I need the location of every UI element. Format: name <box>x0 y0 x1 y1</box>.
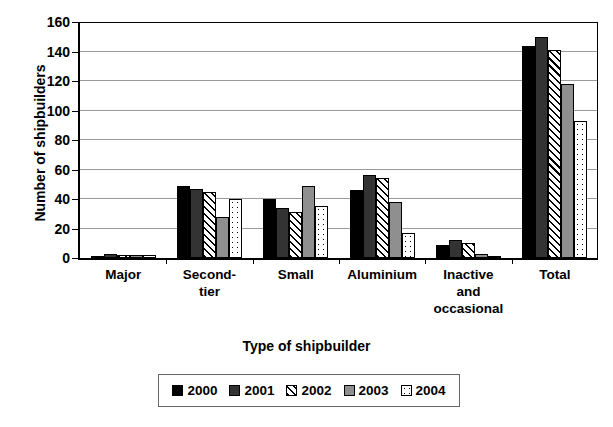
bar <box>522 46 535 258</box>
bar <box>315 206 328 258</box>
legend-item[interactable]: 2000 <box>172 384 217 397</box>
y-axis-tick-label: 80 <box>30 135 70 145</box>
legend-label: 2001 <box>244 384 274 397</box>
bar-group <box>166 22 252 258</box>
bar-group <box>512 22 598 258</box>
bar <box>350 190 363 258</box>
legend-label: 2003 <box>359 384 389 397</box>
legend-swatch-icon <box>344 385 355 396</box>
bar <box>488 256 501 258</box>
x-axis-tick-label: Small <box>253 266 339 283</box>
legend-label: 2000 <box>187 384 217 397</box>
x-axis-title: Type of shipbuilder <box>0 338 613 354</box>
x-axis-tick-label-line: Aluminium <box>339 266 425 283</box>
legend-swatch-icon <box>229 385 240 396</box>
y-axis-tick-label: 100 <box>30 106 70 116</box>
bar <box>389 202 402 258</box>
x-axis-tick-labels: MajorSecond-tierSmallAluminiumInactivean… <box>80 266 598 328</box>
x-axis-tick-label: Inactiveandoccasional <box>425 266 511 317</box>
x-axis-tick-mark <box>166 258 167 264</box>
legend: 20002001200220032004 <box>158 374 460 407</box>
bar <box>177 186 190 258</box>
x-axis-tick-label-line: Major <box>80 266 166 283</box>
x-axis-tick-label: Total <box>512 266 598 283</box>
x-axis-tick-label-line: occasional <box>425 300 511 317</box>
bar <box>91 256 104 258</box>
bar <box>475 254 488 258</box>
legend-label: 2002 <box>301 384 331 397</box>
x-axis-tick-mark <box>425 258 426 264</box>
x-axis-tick-label-line: Inactive <box>425 266 511 283</box>
legend-item[interactable]: 2003 <box>344 384 389 397</box>
bar <box>548 50 561 258</box>
bar <box>574 121 587 258</box>
bar <box>449 240 462 258</box>
bar <box>190 189 203 258</box>
y-axis-tick-label: 120 <box>30 76 70 86</box>
x-axis-tick-label: Aluminium <box>339 266 425 283</box>
bar <box>561 84 574 258</box>
bar-group <box>425 22 511 258</box>
bar <box>229 199 242 258</box>
bar <box>216 217 229 258</box>
legend-swatch-icon <box>172 385 183 396</box>
x-axis-tick-label: Second-tier <box>166 266 252 300</box>
bar <box>104 254 117 258</box>
bar-chart: Number of shipbuilders 16014012010080604… <box>0 0 613 427</box>
y-axis-tick-label: 60 <box>30 165 70 175</box>
legend-swatch-icon <box>401 385 412 396</box>
bar-group <box>339 22 425 258</box>
y-axis-tick-label: 20 <box>30 224 70 234</box>
x-axis-tick-label-line: Total <box>512 266 598 283</box>
bar-group <box>253 22 339 258</box>
bar <box>130 255 143 258</box>
bar-groups <box>80 22 598 258</box>
bar <box>263 199 276 258</box>
x-axis-tick-label: Major <box>80 266 166 283</box>
bar <box>363 175 376 258</box>
x-axis-tick-mark <box>339 258 340 264</box>
bar <box>143 255 156 258</box>
legend-item[interactable]: 2004 <box>401 384 446 397</box>
legend-item[interactable]: 2001 <box>229 384 274 397</box>
bar <box>117 255 130 258</box>
bar <box>535 37 548 258</box>
bar <box>203 192 216 258</box>
x-axis-tick-label-line: Second- <box>166 266 252 283</box>
x-axis-tick-mark <box>253 258 254 264</box>
bar <box>302 186 315 258</box>
bar <box>436 245 449 258</box>
y-axis-tick-label: 140 <box>30 47 70 57</box>
legend-label: 2004 <box>416 384 446 397</box>
x-axis-tick-label-line: Small <box>253 266 339 283</box>
x-axis-tick-mark <box>512 258 513 264</box>
bar <box>376 178 389 258</box>
x-axis-tick-label-line: tier <box>166 283 252 300</box>
legend-swatch-icon <box>286 385 297 396</box>
bar <box>289 212 302 258</box>
bar <box>276 208 289 258</box>
x-axis-tick-label-line: and <box>425 283 511 300</box>
legend-item[interactable]: 2002 <box>286 384 331 397</box>
y-axis-tick-label: 0 <box>30 253 70 263</box>
bar <box>402 233 415 258</box>
bar <box>462 243 475 258</box>
y-axis-tick-label: 40 <box>30 194 70 204</box>
bar-group <box>80 22 166 258</box>
y-axis-tick-label: 160 <box>30 17 70 27</box>
